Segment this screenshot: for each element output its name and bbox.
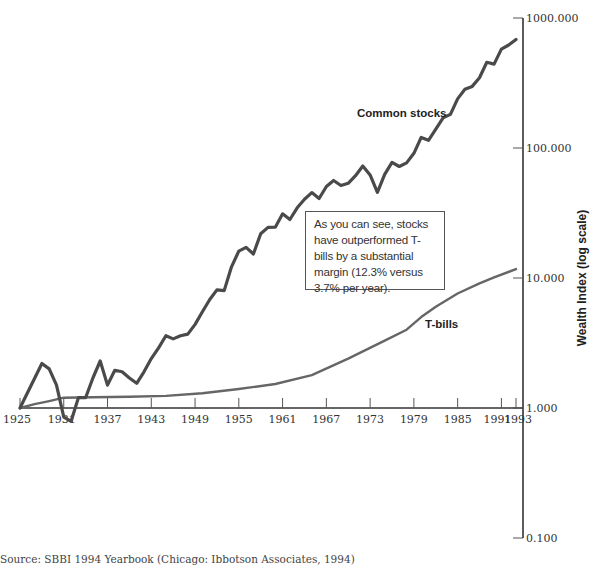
y-tick-label: 0.100 [526,532,558,545]
y-tick-label: 1000.000 [526,12,579,25]
annotation-text: As you can see, stocks have outperformed… [314,217,428,294]
y-tick-label: 1.000 [526,402,558,415]
x-tick-label: 1943 [137,413,165,426]
x-tick-label: 1967 [312,413,340,426]
y-axis-title: Wealth Index (log scale) [575,210,589,346]
source-note: Source: SBBI 1994 Yearbook (Chicago: Ibb… [0,553,355,565]
x-tick-label: 1961 [269,413,297,426]
y-axis: 1000.000100.00010.0001.0000.100 [513,12,579,545]
stocks-series-label: Common stocks [357,107,446,119]
x-tick-label: 1925 [3,413,31,426]
x-tick-label: 1985 [444,413,472,426]
tbills-series-label: T-bills [425,318,458,330]
x-tick-label: 1973 [356,413,384,426]
annotation-box: As you can see, stocks have outperformed… [305,211,445,290]
x-tick-label: 1949 [181,413,209,426]
x-axis: 1925193119371943194919551961196719731979… [3,398,532,426]
x-tick-label: 1979 [400,413,428,426]
y-tick-label: 100.000 [526,142,572,155]
x-tick-label: 1955 [225,413,253,426]
x-tick-label: 1937 [94,413,122,426]
y-tick-label: 10.000 [526,272,565,285]
